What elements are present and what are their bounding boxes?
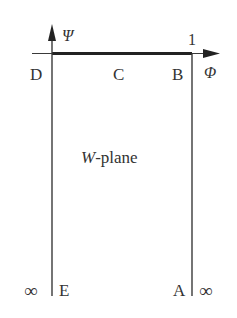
point-a-label: A (173, 281, 186, 300)
point-b-label: B (172, 65, 183, 84)
point-e-label: E (59, 281, 69, 300)
phi-axis-arrowhead-icon (203, 49, 220, 58)
point-c-label: C (113, 65, 124, 84)
psi-axis-arrowhead-icon (48, 24, 56, 41)
tick-label-1: 1 (188, 31, 196, 48)
infinity-left-label: ∞ (24, 280, 38, 301)
phi-axis-label: Φ (204, 64, 216, 81)
point-d-label: D (30, 65, 42, 84)
plane-label: W-plane (81, 148, 138, 167)
plane-label-suffix: -plane (95, 148, 137, 167)
infinity-right-label: ∞ (199, 280, 213, 301)
w-plane-diagram: Ψ 1 Φ D C B W-plane ∞ E A ∞ (0, 0, 237, 318)
psi-axis-label: Ψ (62, 27, 75, 44)
